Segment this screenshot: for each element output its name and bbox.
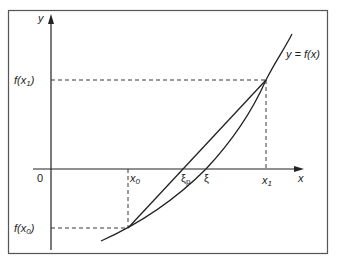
secant-diagram: y x 0 x0 x1 ξp ξ f(x1) f(x0) y = f(x)	[0, 0, 337, 265]
secant-line	[128, 80, 266, 228]
y-axis-label: y	[37, 12, 45, 24]
xi-label: ξ	[204, 172, 209, 184]
x1-label: x1	[261, 174, 272, 188]
curve-fx	[101, 34, 292, 241]
y-axis-arrow-icon	[48, 14, 54, 24]
x-axis-label: x	[297, 172, 304, 184]
curve-label: y = f(x)	[285, 48, 320, 60]
xi-p-label: ξp	[181, 172, 191, 186]
fx1-label: f(x1)	[14, 74, 35, 88]
frame	[9, 11, 328, 254]
x0-label: x0	[129, 172, 141, 186]
origin-label: 0	[37, 172, 43, 184]
fx0-label: f(x0)	[14, 222, 35, 236]
